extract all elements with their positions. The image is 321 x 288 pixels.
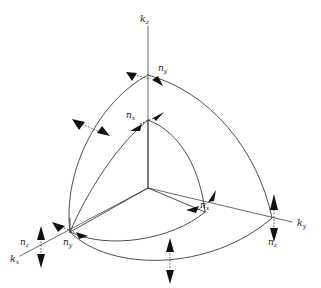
normal-arrow-nz-left: [37, 226, 45, 268]
nz-left-arrowhead-down: [37, 254, 45, 268]
normal-label-ny-top: ny: [158, 63, 168, 75]
inner-arc-base: [70, 212, 205, 241]
upper-left-arrowhead-left: [72, 119, 85, 130]
normal-label-ny-left-sub: y: [68, 241, 73, 249]
normal-label-nx-mid: nx: [126, 110, 136, 121]
axis-kx-line: [20, 188, 148, 256]
nx-right-arrowhead-up: [208, 190, 216, 202]
axis-label-kz: kz: [140, 13, 150, 25]
axis-label-kx-sub: x: [16, 258, 20, 265]
bottom-arrowhead-up: [166, 238, 174, 252]
normal-label-ny-left: ny: [63, 237, 73, 249]
outer-arc-right-meridian: [148, 75, 272, 218]
inner-arc-right-meridian: [148, 120, 205, 212]
normal-label-ny-top-sub: y: [163, 67, 168, 75]
axis-label-ky-sub: y: [302, 222, 307, 230]
outer-arc-base: [70, 218, 272, 260]
normal-label-nz-left-sub: z: [25, 241, 30, 248]
axis-label-ky: ky: [297, 217, 307, 230]
nz-right-arrowhead-up: [270, 194, 278, 210]
normal-label-nx-right-sub: x: [206, 204, 210, 211]
inner-arc-left-meridian: [70, 120, 148, 232]
normal-label-nx-mid-sub: x: [132, 114, 136, 121]
ny-top-arrowhead-left: [126, 72, 137, 81]
axis-ky-line: [148, 188, 292, 222]
nx-mid-arrowhead-right: [153, 112, 164, 121]
normal-label-nz-right-sub: z: [273, 241, 278, 248]
diagram-canvas: kz ky kx ny nx nx ny nz nz: [0, 0, 321, 288]
outer-wedge-group: [69, 75, 272, 260]
normal-label-nz-right: nz: [268, 237, 278, 248]
axis-label-kx: kx: [10, 253, 20, 265]
inner-edge-origin-to-kx: [70, 188, 148, 232]
inner-wedge-group: [70, 120, 205, 241]
normal-arrow-ny-top: [126, 72, 163, 86]
nx-mid-arrowhead-left: [130, 124, 142, 131]
normal-label-nz-left: nz: [20, 237, 30, 248]
nx-mid-dash: [140, 118, 154, 124]
unlabeled-arrow-bottom: [166, 238, 174, 284]
ny-left-arrowhead-upleft: [52, 222, 65, 232]
ny-top-arrowhead-right: [152, 76, 163, 86]
bottom-arrowhead-down: [166, 270, 174, 284]
upper-left-arrowhead-right: [97, 126, 110, 136]
axes-group: [20, 26, 292, 256]
axis-label-kz-sub: z: [145, 18, 150, 25]
upper-left-dash: [82, 124, 100, 132]
nz-left-arrowhead-up: [37, 226, 45, 240]
figure-root: kz ky kx ny nx nx ny nz nz: [0, 0, 321, 288]
